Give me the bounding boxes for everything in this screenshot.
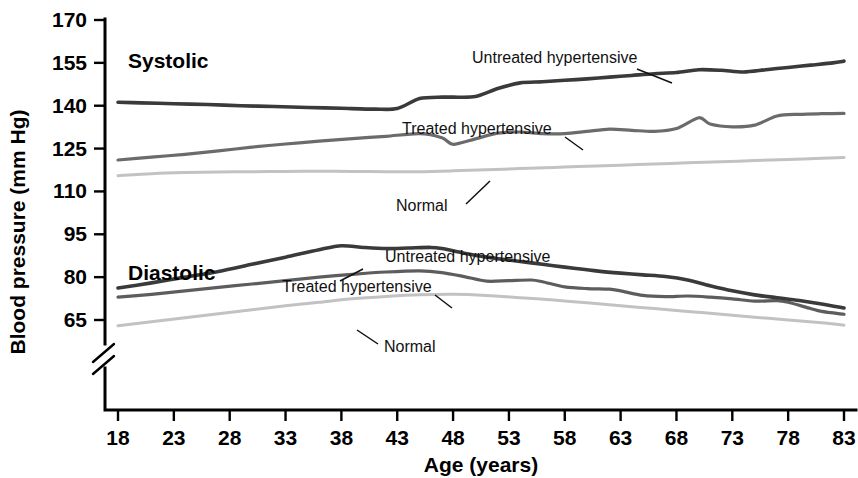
callout-label-sys-untreated: Untreated hypertensive — [472, 49, 638, 66]
y-tick-label-155: 155 — [52, 51, 87, 74]
y-tick-label-125: 125 — [52, 137, 87, 160]
x-tick-label-38: 38 — [330, 426, 354, 449]
group-titles: SystolicDiastolic — [128, 49, 216, 284]
line-systolic-untreated-hypertensive — [118, 61, 844, 109]
x-tick-label-58: 58 — [553, 426, 577, 449]
callout-label-dia-untreated: Untreated hypertensive — [385, 248, 551, 265]
callout-label-dia-normal: Normal — [384, 338, 436, 355]
x-tick-label-33: 33 — [274, 426, 297, 449]
y-tick-label-140: 140 — [52, 94, 87, 117]
y-axis-title: Blood pressure (mm Hg) — [6, 109, 29, 354]
x-axis-title: Age (years) — [424, 453, 538, 476]
x-tick-label-43: 43 — [386, 426, 409, 449]
x-tick-label-28: 28 — [218, 426, 242, 449]
x-tick-label-18: 18 — [106, 426, 130, 449]
series-group-systolic — [118, 61, 844, 176]
group-title-diastolic: Diastolic — [128, 261, 216, 284]
x-tick-label-73: 73 — [721, 426, 744, 449]
x-tick-label-68: 68 — [665, 426, 689, 449]
line-systolic-normal — [118, 157, 844, 175]
callout-leader-sys-normal — [466, 181, 490, 204]
chart-figure: 658095110125140155170 182328333843485358… — [0, 0, 858, 478]
y-axis-tick-labels: 658095110125140155170 — [52, 8, 87, 331]
x-axis-ticks — [118, 410, 844, 421]
blood-pressure-line-chart: 658095110125140155170 182328333843485358… — [0, 0, 858, 478]
axes-group — [93, 19, 856, 421]
y-tick-label-110: 110 — [53, 179, 87, 202]
x-tick-label-83: 83 — [832, 426, 855, 449]
x-tick-label-63: 63 — [609, 426, 632, 449]
y-tick-label-80: 80 — [64, 265, 87, 288]
x-tick-label-78: 78 — [776, 426, 800, 449]
y-tick-label-65: 65 — [64, 308, 88, 331]
x-tick-label-53: 53 — [497, 426, 520, 449]
axis-lines — [105, 19, 856, 410]
series-lines — [118, 61, 844, 326]
callout-label-dia-treated: Treated hypertensive — [282, 278, 432, 295]
group-title-systolic: Systolic — [128, 49, 209, 72]
y-tick-label-170: 170 — [52, 8, 87, 31]
x-tick-label-48: 48 — [441, 426, 465, 449]
x-tick-label-23: 23 — [162, 426, 185, 449]
callout-label-sys-normal: Normal — [396, 197, 448, 214]
callout-label-sys-treated: Treated hypertensive — [402, 120, 552, 137]
callout-leader-sys-treated — [565, 137, 583, 150]
y-axis-ticks — [94, 20, 105, 320]
callout-leader-dia-treated — [435, 295, 452, 308]
x-axis-tick-labels: 1823283338434853586368737883 — [106, 426, 855, 449]
callout-leader-dia-normal — [357, 330, 378, 344]
y-tick-label-95: 95 — [64, 222, 88, 245]
